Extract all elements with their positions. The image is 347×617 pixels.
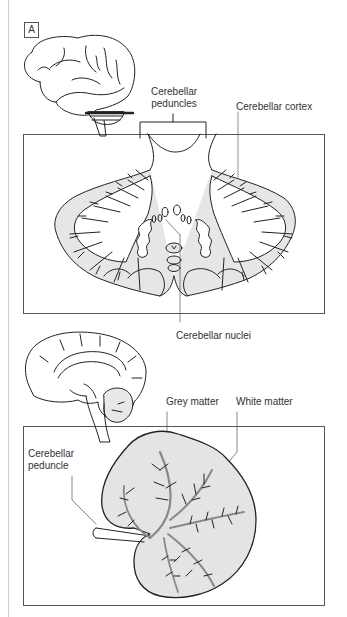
label-cerebellar-nuclei: Cerebellar nuclei (176, 330, 251, 342)
label-grey-matter: Grey matter (166, 396, 219, 408)
peduncles-bracket (140, 122, 206, 138)
label-cerebellar-cortex: Cerebellar cortex (236, 101, 312, 113)
label-peduncles-line2: peduncles (150, 98, 198, 110)
cerebellum-sagittal-section (93, 431, 256, 597)
label-cerebellar-peduncle: Cerebellar peduncle (28, 448, 74, 472)
label-peduncle-line1: Cerebellar (28, 448, 74, 460)
midsagittal-brain-icon (25, 332, 146, 442)
cerebellum-coronal-section (55, 134, 295, 296)
label-peduncle-line2: peduncle (28, 460, 74, 472)
label-cerebellar-peduncles: Cerebellar peduncles (150, 86, 198, 110)
label-white-matter: White matter (236, 396, 293, 408)
lateral-brain-icon (24, 35, 134, 136)
label-peduncles-line1: Cerebellar (150, 86, 198, 98)
